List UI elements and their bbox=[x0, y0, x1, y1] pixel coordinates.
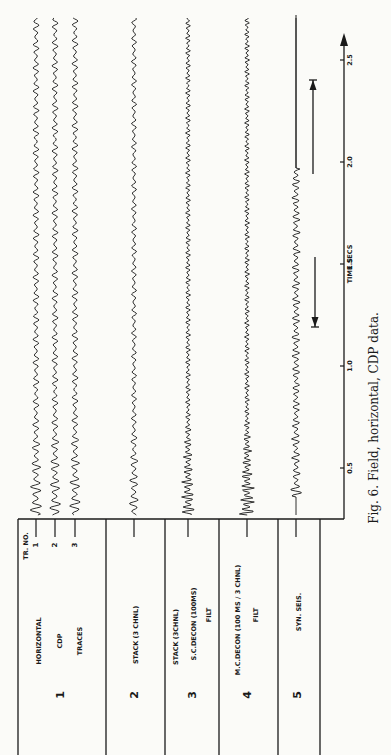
trace-number: 1 bbox=[32, 542, 40, 547]
panel-number: 2 bbox=[128, 691, 141, 699]
panel-4-line: M.C.DECON (100 MS / 3 CHNL) bbox=[234, 565, 242, 675]
window-start-arrow-icon bbox=[309, 80, 317, 174]
time-axis-label: TIME SECS bbox=[346, 244, 354, 283]
panel-number: 3 bbox=[186, 691, 199, 699]
seismic-trace bbox=[30, 18, 41, 515]
figure-caption: Fig. 6. Field, horizontal, CDP data. bbox=[367, 312, 381, 524]
trace-number: 3 bbox=[71, 542, 79, 547]
panel-3-line: FILT bbox=[205, 607, 213, 622]
seismic-traces bbox=[30, 15, 301, 537]
axis-tick-label: 1.0 bbox=[346, 360, 354, 372]
seismic-trace bbox=[130, 18, 139, 515]
panel-number: 5 bbox=[291, 691, 304, 699]
panel-number: 1 bbox=[54, 691, 67, 699]
panel-3-line: STACK (3CHNL) bbox=[172, 609, 180, 665]
axis-tick-label: 0.5 bbox=[346, 462, 354, 474]
axis-arrowhead-icon bbox=[340, 33, 348, 46]
panel-3-line: S.C.DECON (100MS) bbox=[190, 588, 198, 661]
tr-no-label: TR. NO. bbox=[22, 532, 30, 560]
axis-tick-label: 2.0 bbox=[346, 156, 354, 168]
panel-1-line: HORIZONTAL bbox=[35, 617, 43, 664]
figure-frame bbox=[18, 40, 344, 755]
seismic-trace bbox=[70, 18, 80, 515]
trace-number: 2 bbox=[51, 542, 59, 547]
seismic-trace bbox=[182, 18, 194, 515]
window-arrows bbox=[309, 80, 319, 327]
panel-labels: 123HORIZONTALCDPTRACES1STACK (3 CHNL)2ST… bbox=[32, 542, 304, 698]
panel-4-line: FILT bbox=[252, 607, 260, 622]
seismic-figure: 0.51.01.52.02.5 123HORIZONTALCDPTRACES1S… bbox=[0, 0, 391, 755]
panel-2-line: STACK (3 CHNL) bbox=[132, 606, 140, 664]
panel-1-line: TRACES bbox=[76, 627, 84, 656]
seismic-trace bbox=[239, 18, 254, 515]
window-end-arrow-icon bbox=[311, 257, 319, 327]
panel-number: 4 bbox=[241, 691, 254, 699]
panel-5-line: SYN. SEIS. bbox=[295, 593, 303, 631]
panel-1-line: CDP bbox=[56, 633, 64, 648]
seismic-trace bbox=[50, 18, 61, 515]
axis-tick-label: 2.5 bbox=[346, 54, 354, 66]
